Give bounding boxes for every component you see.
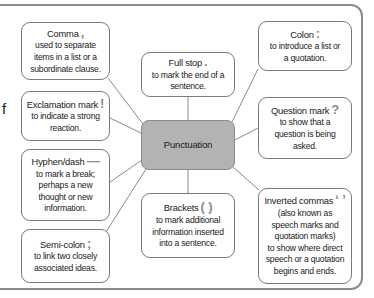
node-inverted-commas: Inverted commas‘ ’ (also known as speech…	[258, 188, 352, 284]
node-title: Inverted commas	[264, 195, 333, 206]
node-brackets: Brackets( ) to mark additional informati…	[141, 193, 235, 258]
colon-symbol-icon: :	[316, 26, 320, 41]
node-description: to mark additional information inserted …	[152, 215, 223, 250]
question-symbol-icon: ?	[331, 102, 339, 117]
link-inverted	[233, 167, 259, 190]
fullstop-symbol-icon: .	[204, 54, 207, 69]
node-title: Question mark	[271, 105, 329, 116]
link-question	[235, 128, 258, 140]
link-colon	[232, 69, 258, 122]
link-hyphen	[110, 160, 142, 182]
node-colon: Colon: to introduce a list or a quotatio…	[258, 21, 352, 71]
node-title: Semi-colon	[40, 239, 85, 250]
node-description: to mark the end of a sentence.	[152, 70, 224, 93]
node-comma: Comma, used to separate items in a list …	[21, 22, 110, 80]
comma-symbol-icon: ,	[81, 25, 84, 40]
center-label: Punctuation	[164, 139, 212, 151]
link-semicolon	[106, 169, 146, 232]
node-description: to indicate a strong reaction.	[31, 111, 100, 134]
dash-symbol-icon: —	[87, 153, 100, 168]
node-title: Hyphen/dash	[32, 156, 85, 167]
node-description: to show that a question is being asked.	[274, 117, 335, 152]
node-description: used to separate items in a list or a su…	[30, 40, 101, 75]
node-title: Exclamation mark	[27, 99, 98, 110]
node-description: to mark a break; perhaps a new thought o…	[36, 169, 95, 215]
brackets-symbol-icon: ( )	[201, 199, 213, 214]
exclamation-symbol-icon: !	[100, 96, 104, 111]
node-fullstop: Full stop. to mark the end of a sentence…	[141, 52, 235, 97]
center-node-punctuation: Punctuation	[141, 120, 235, 170]
node-exclamation: Exclamation mark! to indicate a strong r…	[21, 91, 110, 141]
link-comma	[108, 78, 143, 124]
node-hyphen: Hyphen/dash— to mark a break; perhaps a …	[21, 149, 110, 221]
node-semicolon: Semi-colon; to link two closely associat…	[21, 229, 110, 283]
node-description: (also known as speech marks and quotatio…	[266, 208, 344, 278]
node-question: Question mark? to show that a question i…	[258, 97, 352, 159]
node-description: to link two closely associated ideas.	[34, 251, 97, 274]
node-title: Full stop	[168, 57, 202, 68]
node-title: Colon	[290, 29, 314, 40]
inverted-commas-symbol-icon: ‘ ’	[335, 192, 345, 207]
link-exclamation	[110, 118, 141, 133]
node-title: Brackets	[164, 202, 199, 213]
node-description: to introduce a list or a quotation.	[270, 41, 341, 64]
semicolon-symbol-icon: ;	[87, 236, 91, 251]
node-title: Comma	[47, 28, 79, 39]
